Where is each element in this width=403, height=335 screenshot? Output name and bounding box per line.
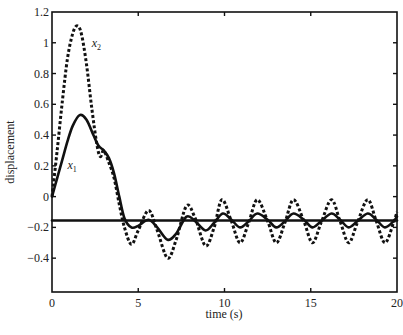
- y-tick-label: 1.2: [34, 5, 49, 19]
- y-tick-label: 0: [43, 190, 49, 204]
- plot-lines: [52, 26, 397, 258]
- y-tick-label: 0.4: [34, 128, 49, 142]
- x-tick-label: 15: [305, 296, 317, 310]
- series-label-x1: x1: [67, 158, 77, 174]
- series-label-x2: x2: [91, 36, 101, 52]
- y-tick-label: 0.2: [34, 159, 49, 173]
- y-tick-label: 0.8: [34, 67, 49, 81]
- x-axis-label: time (s): [206, 307, 243, 321]
- x-tick-label: 0: [49, 296, 55, 310]
- y-axis-label: displacement: [3, 120, 17, 184]
- series-labels: x1x2: [67, 36, 101, 174]
- displacement-chart: 051015201.210.80.60.40.20−0.2−0.4 time (…: [0, 0, 403, 335]
- y-tick-label: 0.6: [34, 97, 49, 111]
- x-tick-label: 20: [391, 296, 403, 310]
- y-tick-label: 1: [43, 36, 49, 50]
- x-tick-label: 5: [135, 296, 141, 310]
- y-tick-label: −0.2: [27, 220, 49, 234]
- y-tick-label: −0.4: [27, 251, 49, 265]
